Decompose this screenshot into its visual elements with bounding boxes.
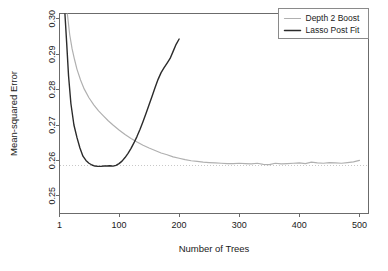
x-tick-label: 100 bbox=[111, 220, 126, 230]
y-tick-label: 0.30 bbox=[47, 10, 57, 28]
chart-figure: 0.250.260.270.280.290.30 110020030040050… bbox=[0, 0, 388, 271]
y-tick-label: 0.29 bbox=[47, 45, 57, 63]
plot-border bbox=[60, 14, 369, 214]
x-tick-label: 400 bbox=[292, 220, 307, 230]
x-tick-label: 1 bbox=[57, 220, 62, 230]
x-tick-label: 300 bbox=[232, 220, 247, 230]
legend-label-depth-2-boost: Depth 2 Boost bbox=[306, 13, 361, 23]
y-tick-label: 0.25 bbox=[47, 187, 57, 205]
x-tick-label: 500 bbox=[352, 220, 367, 230]
y-tick-label: 0.27 bbox=[47, 116, 57, 134]
plot-frame bbox=[60, 14, 369, 214]
x-tick-label: 200 bbox=[172, 220, 187, 230]
x-axis: 1100200300400500 bbox=[57, 214, 367, 230]
y-axis-title: Mean-squared Error bbox=[8, 71, 19, 156]
x-axis-title: Number of Trees bbox=[179, 243, 250, 254]
y-tick-label: 0.26 bbox=[47, 152, 57, 170]
legend-label-lasso-post-fit: Lasso Post Fit bbox=[306, 25, 360, 35]
y-tick-label: 0.28 bbox=[47, 81, 57, 99]
y-axis: 0.250.260.270.280.290.30 bbox=[47, 10, 60, 205]
chart-legend: Depth 2 Boost Lasso Post Fit bbox=[279, 9, 369, 39]
series-line-lasso-post-fit bbox=[65, 14, 179, 167]
mse-vs-trees-line-chart: 0.250.260.270.280.290.30 110020030040050… bbox=[0, 0, 388, 271]
